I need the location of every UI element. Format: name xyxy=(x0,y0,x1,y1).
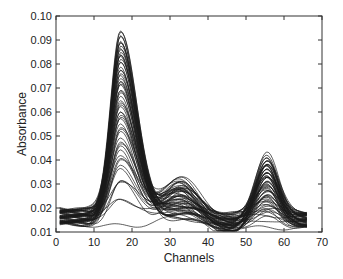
x-axis-title: Channels xyxy=(164,251,215,265)
x-tick-label: 10 xyxy=(88,236,100,248)
y-tick-label: 0.08 xyxy=(31,58,52,70)
y-tick-label: 0.03 xyxy=(31,178,52,190)
x-tick-label: 70 xyxy=(316,236,328,248)
y-tick-label: 0.09 xyxy=(31,34,52,46)
y-tick-label: 0.05 xyxy=(31,130,52,142)
x-tick-label: 30 xyxy=(164,236,176,248)
y-tick-label: 0.10 xyxy=(31,10,52,22)
x-tick-label: 40 xyxy=(202,236,214,248)
y-tick-label: 0.06 xyxy=(31,106,52,118)
x-tick-label: 20 xyxy=(126,236,138,248)
x-tick-label: 60 xyxy=(278,236,290,248)
y-tick-label: 0.04 xyxy=(31,154,52,166)
x-tick-label: 50 xyxy=(240,236,252,248)
spectra-curves xyxy=(60,31,307,231)
spectrum-curve xyxy=(60,59,307,216)
y-axis-title: Absorbance xyxy=(15,92,29,156)
absorbance-chart: 010203040506070 0.010.020.030.040.050.06… xyxy=(0,0,343,279)
x-tick-label: 0 xyxy=(53,236,59,248)
spectrum-curve xyxy=(60,50,307,218)
y-tick-label: 0.01 xyxy=(31,226,52,238)
y-tick-label: 0.02 xyxy=(31,202,52,214)
y-tick-label: 0.07 xyxy=(31,82,52,94)
